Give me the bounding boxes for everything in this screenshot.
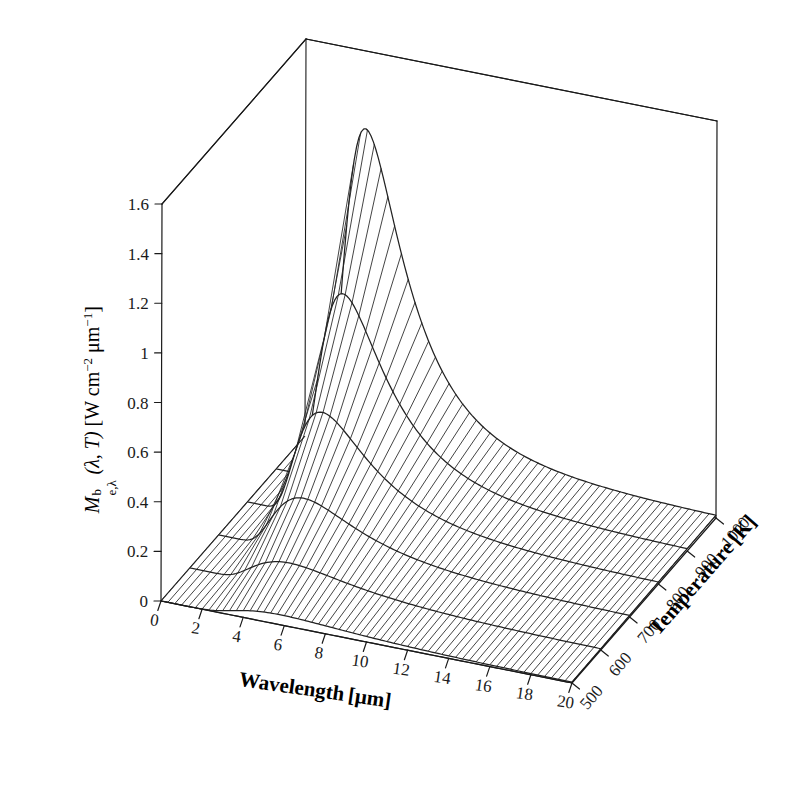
z-tick-label-0: 0 [140,592,149,611]
z-tick-label-1.2: 1.2 [128,294,149,313]
z-tick-label-1.4: 1.4 [128,245,150,264]
z-tick-label-1.6: 1.6 [128,195,149,214]
z-tick-label-0.6: 0.6 [127,443,148,462]
z-tick-label-0.4: 0.4 [127,493,149,512]
z-tick-label-1: 1 [140,344,149,363]
z-tick-label-0.8: 0.8 [127,394,148,413]
x-tick-label-14: 14 [433,667,453,688]
x-tick-label-18: 18 [515,683,535,704]
z-tick-label-0.2: 0.2 [127,542,148,561]
blackbody-surface-figure: 00.20.40.60.811.21.41.602468101214161820… [0,0,804,803]
x-tick-label-16: 16 [474,675,494,696]
x-tick-label-12: 12 [391,659,411,680]
plot-canvas: 00.20.40.60.811.21.41.602468101214161820… [0,0,804,803]
x-tick-label-10: 10 [350,650,370,671]
x-tick-label-20: 20 [556,691,576,712]
